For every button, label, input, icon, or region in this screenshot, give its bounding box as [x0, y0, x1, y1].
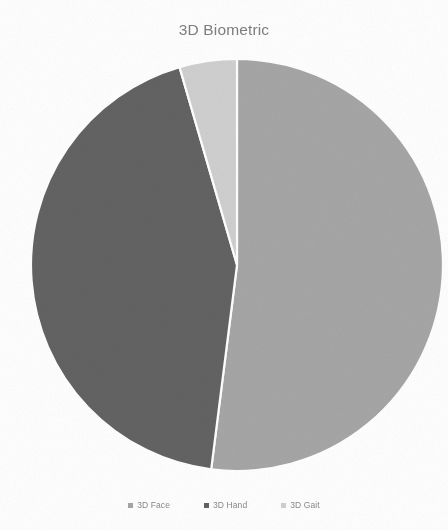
- legend-swatch-icon-3d-hand: [204, 503, 209, 508]
- legend-item-3d-gait[interactable]: 3D Gait: [281, 500, 320, 510]
- chart-legend: 3D Face 3D Hand 3D Gait: [0, 500, 448, 510]
- legend-label-3d-hand: 3D Hand: [213, 500, 247, 510]
- pie-chart-figure: 3D Biometric 3D Face 3D Hand 3D Gait: [0, 0, 448, 530]
- legend-swatch-icon-3d-face: [128, 503, 133, 508]
- legend-item-3d-face[interactable]: 3D Face: [128, 500, 170, 510]
- legend-label-3d-face: 3D Face: [137, 500, 170, 510]
- pie-chart-plot-area: [30, 58, 444, 472]
- legend-swatch-icon-3d-gait: [281, 503, 286, 508]
- chart-title: 3D Biometric: [0, 20, 448, 40]
- pie-svg: [30, 58, 444, 472]
- pie-slice-3d-face[interactable]: [211, 59, 443, 471]
- legend-item-3d-hand[interactable]: 3D Hand: [204, 500, 247, 510]
- pie-slice-group: [31, 59, 443, 471]
- legend-label-3d-gait: 3D Gait: [290, 500, 320, 510]
